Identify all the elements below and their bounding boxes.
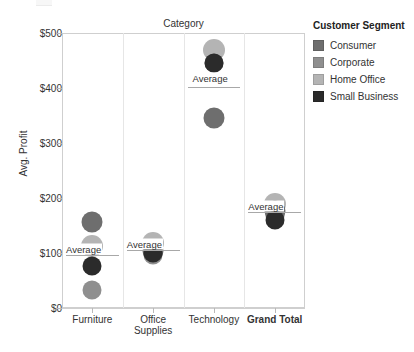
average-reference-line: [127, 250, 180, 251]
y-tick-label: $200: [14, 193, 62, 204]
legend-item-label: Small Business: [330, 91, 398, 102]
x-tick-mark: [153, 308, 154, 313]
legend-item[interactable]: Corporate: [313, 54, 413, 71]
legend-title: Customer Segment: [313, 20, 413, 31]
legend-swatch-icon: [313, 74, 324, 85]
x-axis-label-technology[interactable]: Technology: [186, 314, 243, 325]
panel-separator: [244, 33, 245, 308]
chart-column-title: Category: [62, 18, 305, 29]
average-reference-line: [248, 212, 301, 213]
y-tick-label: $400: [14, 83, 62, 94]
average-reference-line: [66, 255, 119, 256]
legend-item-label: Consumer: [330, 40, 376, 51]
data-point[interactable]: [83, 280, 102, 299]
x-tick-mark: [92, 308, 93, 313]
data-point[interactable]: [204, 54, 223, 73]
legend: Customer Segment ConsumerCorporateHome O…: [313, 20, 413, 105]
panel-separator: [184, 33, 185, 308]
x-axis-label-grand-total[interactable]: Grand Total: [246, 314, 303, 325]
legend-swatch-icon: [313, 40, 324, 51]
legend-item[interactable]: Home Office: [313, 71, 413, 88]
legend-item-label: Home Office: [330, 74, 385, 85]
average-reference-line: [188, 87, 241, 88]
y-axis[interactable]: $0$100$200$300$400$500: [0, 0, 62, 352]
legend-items[interactable]: ConsumerCorporateHome OfficeSmall Busine…: [313, 37, 413, 105]
average-line-label: Average: [126, 238, 163, 249]
y-tick-mark: [56, 143, 62, 144]
y-tick-label: $500: [14, 28, 62, 39]
x-tick-mark: [214, 308, 215, 313]
average-line-label: Average: [247, 200, 284, 211]
panel-separator: [123, 33, 124, 308]
y-tick-label: $100: [14, 248, 62, 259]
y-tick-label: $0: [14, 303, 62, 314]
legend-swatch-icon: [313, 57, 324, 68]
legend-item-label: Corporate: [330, 57, 374, 68]
legend-swatch-icon: [313, 91, 324, 102]
average-line-label: Average: [65, 243, 102, 254]
average-line-label: Average: [192, 73, 229, 84]
x-axis-label-furniture[interactable]: Furniture: [64, 314, 121, 325]
legend-item[interactable]: Consumer: [313, 37, 413, 54]
x-axis-label-office-supplies[interactable]: Office Supplies: [125, 314, 182, 336]
y-tick-mark: [56, 253, 62, 254]
data-point[interactable]: [83, 257, 102, 276]
y-tick-mark: [56, 33, 62, 34]
legend-item[interactable]: Small Business: [313, 88, 413, 105]
dot-plot-chart: Category Avg. Profit $0$100$200$300$400$…: [0, 0, 414, 352]
y-tick-mark: [56, 198, 62, 199]
y-tick-mark: [56, 88, 62, 89]
x-tick-mark: [275, 308, 276, 313]
data-point[interactable]: [265, 211, 284, 230]
x-axis-line: [62, 308, 305, 309]
data-point[interactable]: [203, 108, 224, 129]
y-tick-label: $300: [14, 138, 62, 149]
data-point[interactable]: [82, 211, 103, 232]
